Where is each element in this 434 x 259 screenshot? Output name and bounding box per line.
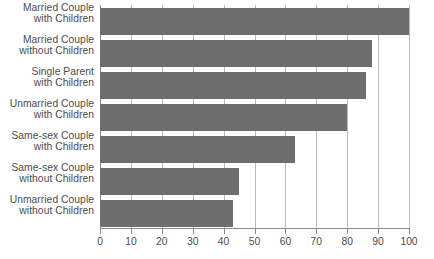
bar	[100, 104, 347, 131]
tick-mark-30	[193, 229, 194, 234]
category-label-line-1: Married Couple	[0, 2, 94, 14]
tick-mark-40	[224, 229, 225, 234]
category-label-line-1: Single Parent	[0, 66, 94, 78]
category-label: Unmarried Couplewithout Children	[0, 194, 94, 217]
tick-mark-70	[316, 229, 317, 234]
tick-mark-20	[162, 229, 163, 234]
category-label-line-2: with Children	[0, 109, 94, 121]
tick-mark-10	[131, 229, 132, 234]
bar-chart: Married Couplewith ChildrenMarried Coupl…	[0, 0, 434, 259]
bar	[100, 40, 372, 67]
category-label-line-1: Married Couple	[0, 34, 94, 46]
bar	[100, 8, 409, 35]
tick-mark-60	[285, 229, 286, 234]
category-label-line-2: without Children	[0, 205, 94, 217]
tick-mark-90	[378, 229, 379, 234]
category-label-line-1: Same-sex Couple	[0, 130, 94, 142]
tick-mark-80	[347, 229, 348, 234]
category-label-line-2: with Children	[0, 13, 94, 25]
category-label-line-1: Unmarried Couple	[0, 194, 94, 206]
category-label-line-2: with Children	[0, 141, 94, 153]
gridline-100	[409, 5, 410, 229]
category-label-line-2: with Children	[0, 77, 94, 89]
category-label: Single Parentwith Children	[0, 66, 94, 89]
tick-mark-100	[409, 229, 410, 234]
plot-area	[100, 5, 409, 229]
category-axis-labels: Married Couplewith ChildrenMarried Coupl…	[0, 5, 94, 229]
tick-mark-0	[100, 229, 101, 234]
category-label: Same-sex Couplewith Children	[0, 130, 94, 153]
tick-label-100: 100	[389, 236, 429, 248]
bar-series	[100, 5, 409, 229]
category-label: Married Couplewithout Children	[0, 34, 94, 57]
category-label-line-2: without Children	[0, 173, 94, 185]
bar	[100, 136, 295, 163]
category-label: Married Couplewith Children	[0, 2, 94, 25]
bar	[100, 168, 239, 195]
category-label-line-1: Unmarried Couple	[0, 98, 94, 110]
bar	[100, 200, 233, 227]
category-label: Same-sex Couplewithout Children	[0, 162, 94, 185]
category-label: Unmarried Couplewith Children	[0, 98, 94, 121]
bar	[100, 72, 366, 99]
tick-mark-50	[255, 229, 256, 234]
category-label-line-1: Same-sex Couple	[0, 162, 94, 174]
category-label-line-2: without Children	[0, 45, 94, 57]
